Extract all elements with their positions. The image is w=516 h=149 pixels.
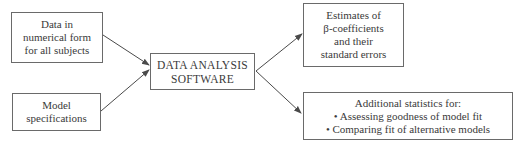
node-text-line: Model xyxy=(42,99,71,112)
node-text-line: Estimates of xyxy=(326,9,381,22)
arrow-software-to-estimates xyxy=(256,34,302,71)
node-text-line: • Assessing goodness of model fit xyxy=(334,110,482,123)
node-text-line: Data in xyxy=(41,18,73,31)
node-text-line: Additional statistics for: xyxy=(355,97,461,110)
input-data-box: Data in numerical form for all subjects xyxy=(11,12,103,63)
node-text-line: standard errors xyxy=(321,48,387,61)
node-text-line: and their xyxy=(334,35,373,48)
arrow-model-to-software xyxy=(101,70,149,111)
node-text-line: SOFTWARE xyxy=(171,72,234,86)
model-specifications-box: Model specifications xyxy=(12,93,101,131)
node-text-line: DATA ANALYSIS xyxy=(157,58,248,72)
arrow-data-to-software xyxy=(103,35,149,65)
node-text-line: • Comparing fit of alternative models xyxy=(326,123,490,136)
additional-statistics-box: Additional statistics for: • Assessing g… xyxy=(303,92,513,140)
node-text-line: numerical form xyxy=(23,31,91,44)
estimates-box: Estimates of β-coefficients and their st… xyxy=(303,3,404,67)
data-analysis-software-box: DATA ANALYSIS SOFTWARE xyxy=(150,53,255,90)
arrow-software-to-additional xyxy=(256,71,301,113)
node-text-line: for all subjects xyxy=(25,44,90,57)
node-text-line: specifications xyxy=(26,112,86,125)
node-text-line: β-coefficients xyxy=(323,22,383,35)
